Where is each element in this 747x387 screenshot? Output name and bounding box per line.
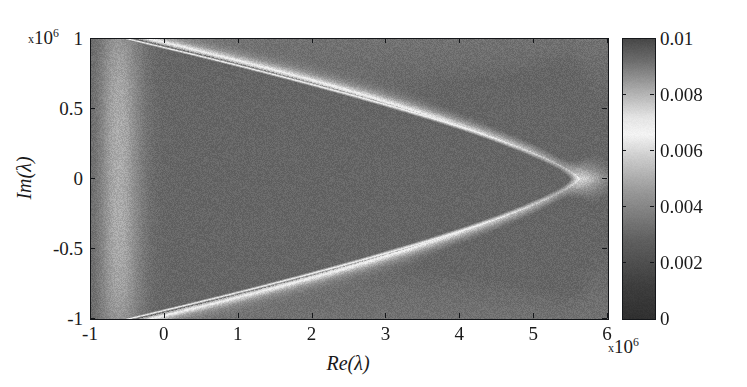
x-tick-bottom [312,313,313,318]
heatmap-plot-area [90,38,609,320]
x-tick-label: 3 [381,324,391,343]
y-tick-right [602,318,607,319]
x-tick-bottom [533,313,534,318]
x-tick-top [164,38,165,43]
x-axis-title: Re(λ) [326,352,369,375]
y-tick-label: -1 [67,309,83,328]
y-tick-right [602,38,607,39]
y-tick-left [90,248,95,249]
y-tick-label: 0 [74,169,84,188]
x-tick-bottom [459,313,460,318]
x-tick-bottom [238,313,239,318]
x-tick-top [312,38,313,43]
colorbar-tick [650,206,654,207]
colorbar-tick [622,150,626,151]
y-tick-label: 1 [74,29,84,48]
x-exp-power: 6 [633,336,639,349]
colorbar-tick-label: 0 [660,309,670,328]
x-tick-label: 5 [528,324,538,343]
x-tick-top [238,38,239,43]
colorbar-tick-label: 0.01 [660,29,693,48]
x-tick-top [533,38,534,43]
y-axis-exponent-multiplier: x106 [28,28,59,47]
colorbar [622,38,656,320]
x-exp-base: 10 [614,336,633,357]
x-tick-top [607,38,608,43]
y-tick-left [90,108,95,109]
colorbar-tick [650,94,654,95]
colorbar-tick-label: 0.008 [660,85,703,104]
x-tick-label: 1 [233,324,243,343]
x-tick-bottom [607,313,608,318]
x-tick-bottom [385,313,386,318]
x-tick-label: 4 [455,324,465,343]
colorbar-tick-label: 0.006 [660,141,703,160]
y-tick-left [90,318,95,319]
y-tick-right [602,248,607,249]
colorbar-tick [650,150,654,151]
heatmap-canvas [91,39,608,319]
y-tick-right [602,108,607,109]
colorbar-tick [622,262,626,263]
spectral-density-figure: x106 x106 -1012345610.50-0.5-1 Re(λ) Im(… [0,0,747,387]
x-tick-bottom [164,313,165,318]
x-tick-top [459,38,460,43]
colorbar-canvas [623,39,655,319]
x-tick-label: 6 [602,324,612,343]
x-tick-label: 2 [307,324,317,343]
y-exp-base: 10 [34,27,53,48]
y-tick-label: -0.5 [53,239,83,258]
x-axis-exponent-multiplier: x106 [608,337,639,356]
y-tick-label: 0.5 [59,99,83,118]
y-exp-power: 6 [53,27,59,40]
colorbar-tick [650,262,654,263]
x-tick-label: 0 [159,324,169,343]
x-tick-label: -1 [82,324,98,343]
colorbar-tick [622,94,626,95]
colorbar-tick-label: 0.002 [660,253,703,272]
colorbar-tick-label: 0.004 [660,197,703,216]
y-tick-left [90,38,95,39]
colorbar-tick [622,206,626,207]
x-tick-top [385,38,386,43]
y-axis-title: Im(λ) [13,156,36,199]
y-tick-left [90,178,95,179]
y-tick-right [602,178,607,179]
